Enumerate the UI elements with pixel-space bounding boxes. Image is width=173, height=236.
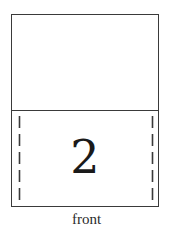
card-top-panel	[12, 15, 158, 111]
side-caption: front	[0, 210, 173, 228]
card-bottom-panel: 2	[12, 112, 158, 207]
right-fold-dashed-line	[151, 116, 154, 204]
card-number: 2	[12, 134, 158, 180]
card-outline: 2	[11, 14, 159, 207]
